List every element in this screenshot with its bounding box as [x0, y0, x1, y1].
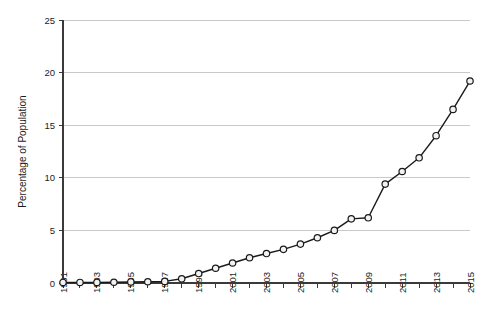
data-point-marker	[297, 241, 303, 247]
y-tick-label-20: 20	[44, 67, 55, 78]
data-point-marker	[399, 168, 405, 174]
data-point-marker	[128, 279, 134, 285]
chart-background	[0, 0, 495, 336]
data-point-marker	[331, 227, 337, 233]
data-point-marker	[77, 279, 83, 285]
data-point-marker	[467, 78, 473, 84]
y-tick-label-5: 5	[50, 225, 55, 236]
data-point-marker	[433, 133, 439, 139]
data-point-marker	[416, 155, 422, 161]
data-point-marker	[246, 255, 252, 261]
data-point-marker	[280, 246, 286, 252]
y-tick-label-15: 15	[44, 120, 55, 131]
data-point-marker	[111, 279, 117, 285]
data-point-marker	[314, 235, 320, 241]
data-point-marker	[212, 265, 218, 271]
data-point-marker	[60, 279, 66, 285]
data-point-marker	[263, 250, 269, 256]
data-point-marker	[348, 216, 354, 222]
y-axis-title: Percentage of Population	[17, 95, 28, 207]
y-tick-label-0: 0	[50, 278, 55, 289]
data-point-marker	[450, 106, 456, 112]
line-chart: 0510152025 19911993199519971999200120032…	[0, 0, 495, 336]
data-point-marker	[229, 260, 235, 266]
chart-canvas: 0510152025 19911993199519971999200120032…	[0, 0, 495, 336]
data-point-marker	[162, 278, 168, 284]
data-point-marker	[94, 279, 100, 285]
y-tick-label-10: 10	[44, 172, 55, 183]
data-point-marker	[179, 276, 185, 282]
y-tick-label-25: 25	[44, 15, 55, 26]
data-point-marker	[365, 215, 371, 221]
data-point-marker	[195, 270, 201, 276]
data-point-marker	[145, 279, 151, 285]
data-point-marker	[382, 181, 388, 187]
